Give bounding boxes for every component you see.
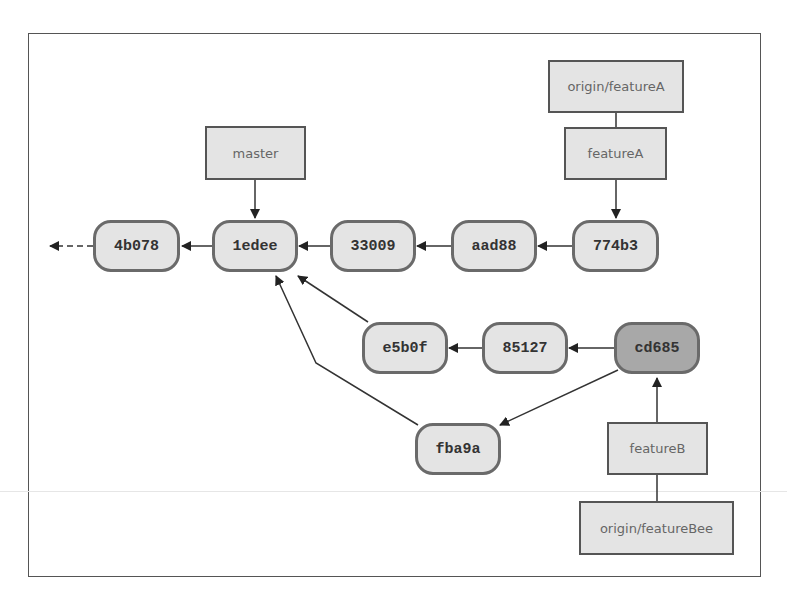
commit-774b3: 774b3 xyxy=(572,220,659,272)
commit-cd685: cd685 xyxy=(614,322,700,374)
commit-4b078: 4b078 xyxy=(93,220,180,272)
commit-e5b0f: e5b0f xyxy=(362,322,448,374)
ref-origin-featureBee: origin/featureBee xyxy=(579,501,734,555)
ref-featureB: featureB xyxy=(607,422,708,475)
ref-master: master xyxy=(205,126,306,180)
ref-origin-featureA: origin/featureA xyxy=(548,60,684,113)
commit-85127: 85127 xyxy=(482,322,568,374)
commit-aad88: aad88 xyxy=(451,220,537,272)
commit-1edee: 1edee xyxy=(212,220,298,272)
commit-33009: 33009 xyxy=(330,220,416,272)
commit-fba9a: fba9a xyxy=(415,423,501,475)
ref-featureA: featureA xyxy=(564,127,667,180)
